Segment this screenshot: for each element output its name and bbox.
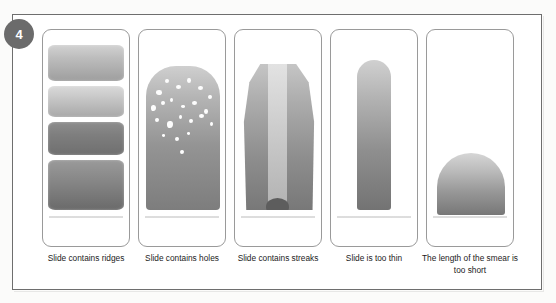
page-background: Slide contains ridges <box>0 0 556 303</box>
hole <box>156 90 162 95</box>
panel-caption: Slide contains streaks <box>230 253 326 265</box>
panel-caption: Slide contains holes <box>134 253 230 265</box>
panel-row: Slide contains ridges <box>13 15 543 291</box>
slide-edge-line <box>337 216 411 218</box>
slide-edge-line <box>145 216 219 218</box>
smear-with-holes <box>146 66 220 210</box>
slide-card-short <box>426 29 514 247</box>
slide-card-streaks <box>234 29 322 247</box>
hole <box>179 115 182 119</box>
hole <box>180 150 184 154</box>
ridge-band <box>48 122 124 155</box>
streak-tail-blob <box>266 198 289 210</box>
hole <box>189 119 193 123</box>
slide-card-thin <box>330 29 418 247</box>
hole <box>161 101 165 105</box>
figure-number-badge: 4 <box>4 19 34 49</box>
panel-caption: Slide contains ridges <box>38 253 134 265</box>
panel-caption: The length of the smear is too short <box>422 253 518 276</box>
slide-edge-line <box>49 216 123 218</box>
panel-ridges: Slide contains ridges <box>42 29 130 247</box>
hole <box>170 98 173 102</box>
slide-card-holes <box>138 29 226 247</box>
hole <box>181 105 185 108</box>
smear-with-streaks <box>240 58 318 210</box>
panel-thin: Slide is too thin <box>330 29 418 247</box>
hole <box>167 121 173 128</box>
thin-smear <box>357 60 391 210</box>
hole <box>187 132 190 135</box>
slide-edge-line <box>433 216 507 218</box>
figure-frame: Slide contains ridges <box>12 14 542 290</box>
panel-holes: Slide contains holes <box>138 29 226 247</box>
ridge-band <box>48 45 124 81</box>
hole <box>192 101 197 105</box>
hole <box>165 79 169 83</box>
hole <box>187 78 191 83</box>
ridge-band <box>48 160 124 210</box>
hole <box>175 137 179 141</box>
hole <box>199 114 204 118</box>
hole <box>204 109 208 114</box>
streak <box>268 58 287 210</box>
hole <box>155 118 159 122</box>
panel-short: The length of the smear is too short <box>426 29 514 247</box>
hole <box>162 134 165 137</box>
hole <box>151 105 156 111</box>
slide-card-ridges <box>42 29 130 247</box>
panel-streaks: Slide contains streaks <box>234 29 322 247</box>
panel-caption: Slide is too thin <box>326 253 422 265</box>
hole <box>208 95 212 99</box>
ridge-band <box>48 86 124 117</box>
slide-edge-line <box>241 216 315 218</box>
hole <box>210 122 213 126</box>
short-smear <box>437 153 505 215</box>
hole <box>176 85 181 89</box>
hole <box>198 86 203 90</box>
